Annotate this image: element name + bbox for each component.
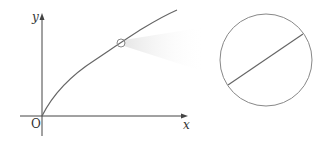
y-axis-arrow-icon [40,13,45,20]
large-magnified-circle [220,14,312,106]
local-linearity-diagram: y x O [0,0,330,142]
origin-label: O [31,117,41,131]
magnifier-wedge [124,27,205,72]
function-curve [42,10,177,116]
x-axis-label: x [183,118,190,132]
y-axis-label: y [31,10,39,24]
